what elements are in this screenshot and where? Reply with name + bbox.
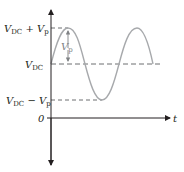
label-trough: VDC − Vp <box>6 95 51 108</box>
label-dc: VDC <box>25 59 43 72</box>
dc-offset-sine-diagram: VDC + Vp VDC VDC − Vp 0 t Vp <box>0 0 184 172</box>
label-zero: 0 <box>38 113 45 124</box>
label-amplitude: Vp <box>61 41 73 54</box>
label-time: t <box>173 113 178 124</box>
label-peak: VDC + Vp <box>4 23 49 36</box>
